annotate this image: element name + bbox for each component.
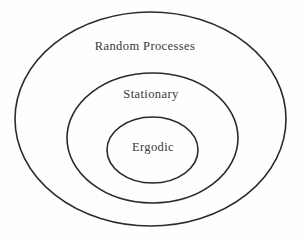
outer-set-label: Random Processes bbox=[95, 39, 196, 53]
nested-sets-diagram: Random Processes Stationary Ergodic bbox=[0, 0, 306, 239]
diagram-svg: Random Processes Stationary Ergodic bbox=[0, 0, 306, 239]
inner-set-label: Ergodic bbox=[132, 140, 174, 154]
middle-set-label: Stationary bbox=[123, 87, 179, 101]
